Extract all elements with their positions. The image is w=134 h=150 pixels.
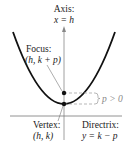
focus-leader-line xyxy=(47,65,62,91)
directrix-label-title: Directrix: xyxy=(82,120,119,130)
p-brace xyxy=(95,93,100,104)
focus-label-coords: (h, k + p) xyxy=(25,55,61,66)
parabola-diagram: Axis: x = h Focus: (h, k + p) p > 0 Vert… xyxy=(0,0,134,150)
vertex-label-title: Vertex: xyxy=(33,120,60,130)
focus-point xyxy=(62,91,66,95)
axis-label-title: Axis: xyxy=(54,4,75,14)
vertex-point xyxy=(62,102,66,106)
axis-label-equation: x = h xyxy=(53,15,74,25)
p-label: p > 0 xyxy=(101,94,123,104)
directrix-label-equation: y = k − p xyxy=(81,131,118,141)
focus-label-title: Focus: xyxy=(26,44,51,54)
vertex-label-coords: (h, k) xyxy=(33,131,53,142)
vertex-leader-line xyxy=(58,106,63,121)
axis-arrowhead xyxy=(62,26,66,32)
